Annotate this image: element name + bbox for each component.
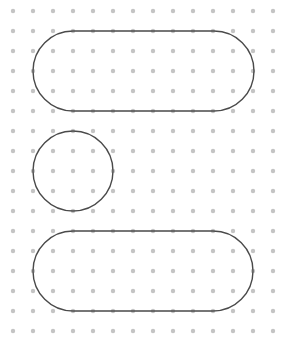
grid-dot: [91, 329, 95, 333]
grid-dot: [231, 149, 235, 153]
grid-dot: [271, 189, 275, 193]
grid-dot: [191, 249, 195, 253]
grid-dot: [251, 189, 255, 193]
grid-dot: [211, 189, 215, 193]
grid-dot: [211, 9, 215, 13]
grid-dot: [11, 209, 15, 213]
grid-dot: [171, 129, 175, 133]
grid-dot: [251, 289, 255, 293]
grid-dot: [71, 329, 75, 333]
grid-dot: [171, 69, 175, 73]
grid-dot: [91, 49, 95, 53]
grid-dot: [131, 289, 135, 293]
grid-dot: [111, 189, 115, 193]
grid-dot: [111, 69, 115, 73]
grid-dot: [251, 9, 255, 13]
grid-dot: [51, 189, 55, 193]
grid-dot: [271, 149, 275, 153]
grid-dot: [71, 289, 75, 293]
grid-dot: [11, 69, 15, 73]
grid-dot: [71, 249, 75, 253]
grid-dot: [111, 289, 115, 293]
grid-dot: [211, 69, 215, 73]
grid-dot: [91, 289, 95, 293]
grid-dot: [91, 169, 95, 173]
grid-dot: [51, 289, 55, 293]
grid-dot: [91, 189, 95, 193]
grid-dot: [131, 169, 135, 173]
grid-dot: [191, 9, 195, 13]
grid-dot: [251, 309, 255, 313]
grid-dot: [111, 329, 115, 333]
grid-dot: [11, 49, 15, 53]
grid-dot: [171, 209, 175, 213]
grid-dot: [151, 49, 155, 53]
grid-dot: [51, 29, 55, 33]
grid-dot: [51, 229, 55, 233]
grid-dot: [211, 249, 215, 253]
grid-dot: [231, 189, 235, 193]
grid-dot: [71, 69, 75, 73]
grid-dot: [71, 49, 75, 53]
grid-dot: [11, 29, 15, 33]
grid-dot: [91, 129, 95, 133]
grid-dot: [191, 289, 195, 293]
grid-dot: [191, 269, 195, 273]
grid-dot: [251, 29, 255, 33]
grid-dot: [111, 149, 115, 153]
grid-dot: [211, 209, 215, 213]
grid-dot: [171, 269, 175, 273]
grid-dot: [51, 329, 55, 333]
grid-dot: [91, 149, 95, 153]
grid-dot: [151, 209, 155, 213]
grid-dot: [211, 89, 215, 93]
grid-dot: [91, 9, 95, 13]
grid-dot: [251, 249, 255, 253]
grid-dot: [51, 9, 55, 13]
grid-dot: [51, 249, 55, 253]
grid-dot: [211, 269, 215, 273]
grid-dot: [231, 249, 235, 253]
grid-dot: [31, 89, 35, 93]
grid-dot: [151, 169, 155, 173]
grid-dot: [131, 89, 135, 93]
grid-dot: [251, 149, 255, 153]
grid-dot: [111, 89, 115, 93]
grid-dot: [31, 129, 35, 133]
grid-dot: [211, 289, 215, 293]
grid-dot: [271, 169, 275, 173]
grid-dot: [251, 169, 255, 173]
grid-dot: [11, 329, 15, 333]
grid-dot: [271, 29, 275, 33]
grid-dot: [131, 189, 135, 193]
grid-dot: [11, 289, 15, 293]
grid-dot: [171, 189, 175, 193]
grid-dot: [231, 229, 235, 233]
grid-dot: [271, 249, 275, 253]
grid-dot: [231, 9, 235, 13]
grid-dot: [271, 209, 275, 213]
grid-dot: [31, 249, 35, 253]
grid-dot: [231, 309, 235, 313]
grid-dot: [51, 169, 55, 173]
grid-dot: [51, 69, 55, 73]
grid-dot: [271, 309, 275, 313]
grid-dot: [111, 249, 115, 253]
top-stadium: [33, 31, 254, 111]
grid-dot: [271, 69, 275, 73]
grid-dot: [31, 309, 35, 313]
grid-dot: [151, 69, 155, 73]
grid-dot: [231, 269, 235, 273]
grid-dot: [151, 129, 155, 133]
grid-dot: [51, 149, 55, 153]
shapes-layer: [33, 31, 254, 311]
grid-dot: [271, 109, 275, 113]
grid-dot: [31, 189, 35, 193]
grid-dot: [51, 49, 55, 53]
grid-dot: [111, 9, 115, 13]
grid-dot: [111, 209, 115, 213]
grid-dot: [171, 49, 175, 53]
grid-dot: [111, 129, 115, 133]
grid-dot: [231, 109, 235, 113]
grid-dot: [191, 69, 195, 73]
